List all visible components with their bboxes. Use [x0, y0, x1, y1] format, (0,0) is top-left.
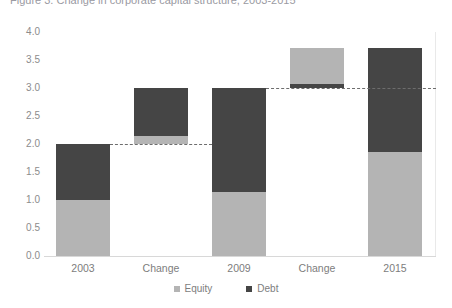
x-tick-label-2015: 2015 [356, 262, 434, 274]
y-tick-label: 1.0 [0, 195, 40, 205]
legend-swatch-icon [246, 286, 252, 292]
bar-segment-debt [368, 48, 422, 152]
x-tick-label-change-2: Change [278, 262, 356, 274]
bar-segment-debt [212, 88, 266, 192]
y-tick-label: 1.5 [0, 167, 40, 177]
bar-change-1[interactable] [134, 88, 188, 144]
bar-segment-equity [368, 152, 422, 256]
bar-segment-equity [290, 48, 344, 84]
legend-swatch-icon [174, 286, 180, 292]
y-tick-label: 0.5 [0, 223, 40, 233]
connector-line-2009-change [266, 88, 436, 89]
y-axis-labels: 4.0 3.5 3.0 2.5 2.0 1.5 1.0 0.5 0.0 [0, 32, 40, 256]
bar-segment-equity [212, 192, 266, 256]
x-axis-labels: 2003 Change 2009 Change 2015 [44, 262, 436, 280]
x-tick-label-2003: 2003 [44, 262, 122, 274]
bar-segment-debt [56, 144, 110, 200]
x-tick-label-2009: 2009 [200, 262, 278, 274]
connector-line-2003-change [110, 144, 212, 145]
y-tick-label: 0.0 [0, 251, 40, 261]
bar-segment-debt [134, 88, 188, 136]
plot-area [44, 32, 436, 256]
legend-item-equity[interactable]: Equity [174, 284, 213, 294]
x-axis-line [44, 256, 436, 257]
y-tick-label: 2.5 [0, 111, 40, 121]
bar-2009[interactable] [212, 88, 266, 256]
bar-segment-equity [134, 136, 188, 144]
page-title: Figure 3. Change in corporate capital st… [10, 0, 340, 6]
bar-change-2[interactable] [290, 48, 344, 88]
bar-2003[interactable] [56, 144, 110, 256]
y-tick-label: 3.5 [0, 55, 40, 65]
x-tick-label-change-1: Change [122, 262, 200, 274]
chart-legend: Equity Debt [0, 284, 452, 294]
legend-item-debt[interactable]: Debt [246, 284, 278, 294]
bar-segment-equity [56, 200, 110, 256]
chart-title-clipped: Figure 3. Change in corporate capital st… [10, 0, 340, 7]
y-tick-label: 3.0 [0, 83, 40, 93]
chart-container: Figure 3. Change in corporate capital st… [0, 0, 452, 308]
legend-label: Equity [185, 284, 213, 294]
legend-label: Debt [257, 284, 278, 294]
y-tick-label: 4.0 [0, 27, 40, 37]
y-tick-label: 2.0 [0, 139, 40, 149]
bar-2015[interactable] [368, 48, 422, 256]
